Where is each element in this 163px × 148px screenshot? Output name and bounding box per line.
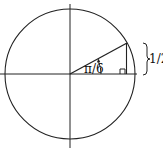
angle-label: π/6 — [84, 62, 104, 76]
unit-circle-diagram: π/6 1/2 — [0, 0, 163, 148]
opposite-side-label: 1/2 — [149, 52, 163, 66]
right-angle-marker — [120, 69, 125, 74]
